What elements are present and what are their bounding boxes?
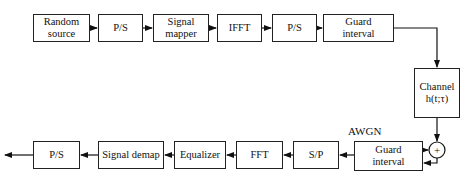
block-ps-rx: P/S <box>33 141 80 169</box>
block-ifft: IFFT <box>217 14 262 42</box>
block-ps-tx2: P/S <box>272 14 317 42</box>
block-guard-interval-tx: Guard interval <box>323 14 394 42</box>
adder-plus: + <box>434 144 440 156</box>
block-channel: Channel h(t;τ) <box>414 68 460 118</box>
block-equalizer: Equalizer <box>174 141 226 169</box>
block-sp: S/P <box>293 141 339 169</box>
block-signal-demap: Signal demap <box>98 141 164 169</box>
block-guard-interval-rx: Guard interval <box>354 141 423 171</box>
block-fft: FFT <box>236 141 283 169</box>
block-signal-mapper: Signal mapper <box>153 14 209 42</box>
awgn-label: AWGN <box>348 125 381 137</box>
block-ps-tx: P/S <box>98 14 143 42</box>
block-random-source: Random source <box>33 14 90 42</box>
